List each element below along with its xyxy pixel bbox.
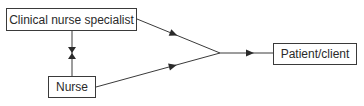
node-nurse: Nurse bbox=[48, 76, 96, 98]
arrow-right-icon bbox=[168, 62, 178, 71]
node-patient-client: Patient/client bbox=[273, 43, 357, 65]
arrow-down-icon bbox=[68, 47, 76, 53]
node-label: Patient/client bbox=[281, 47, 350, 61]
arrow-right-icon bbox=[169, 29, 179, 39]
nurse-to-merge-line bbox=[96, 53, 220, 87]
node-label: Clinical nurse specialist bbox=[9, 13, 134, 27]
arrow-up-icon bbox=[68, 53, 76, 59]
node-clinical-nurse-specialist: Clinical nurse specialist bbox=[6, 8, 137, 31]
arrow-right-icon bbox=[246, 50, 254, 57]
node-label: Nurse bbox=[56, 80, 88, 94]
cns-to-merge-line bbox=[137, 19, 220, 53]
